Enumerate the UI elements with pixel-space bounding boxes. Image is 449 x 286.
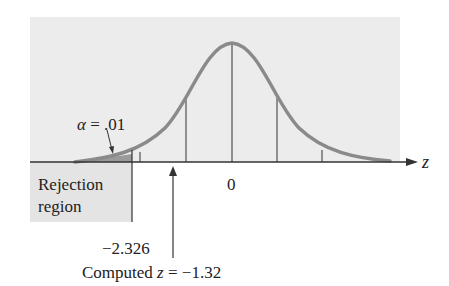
rejection-label-1: Rejection [38, 175, 104, 194]
rejection-label-2: region [38, 197, 82, 216]
axis-label-z: z [421, 152, 429, 172]
critical-value-label: −2.326 [102, 239, 150, 258]
plot-panel [30, 17, 400, 162]
computed-z-arrow-icon [169, 166, 177, 176]
axis-arrow-icon [406, 158, 418, 166]
alpha-label: α = .01 [77, 115, 125, 134]
computed-z-label: Computed z = −1.32 [82, 263, 221, 282]
tick-label-zero: 0 [227, 175, 236, 194]
normal-distribution-chart: α = .01 Rejection region 0 −2.326 Comput… [0, 0, 449, 286]
